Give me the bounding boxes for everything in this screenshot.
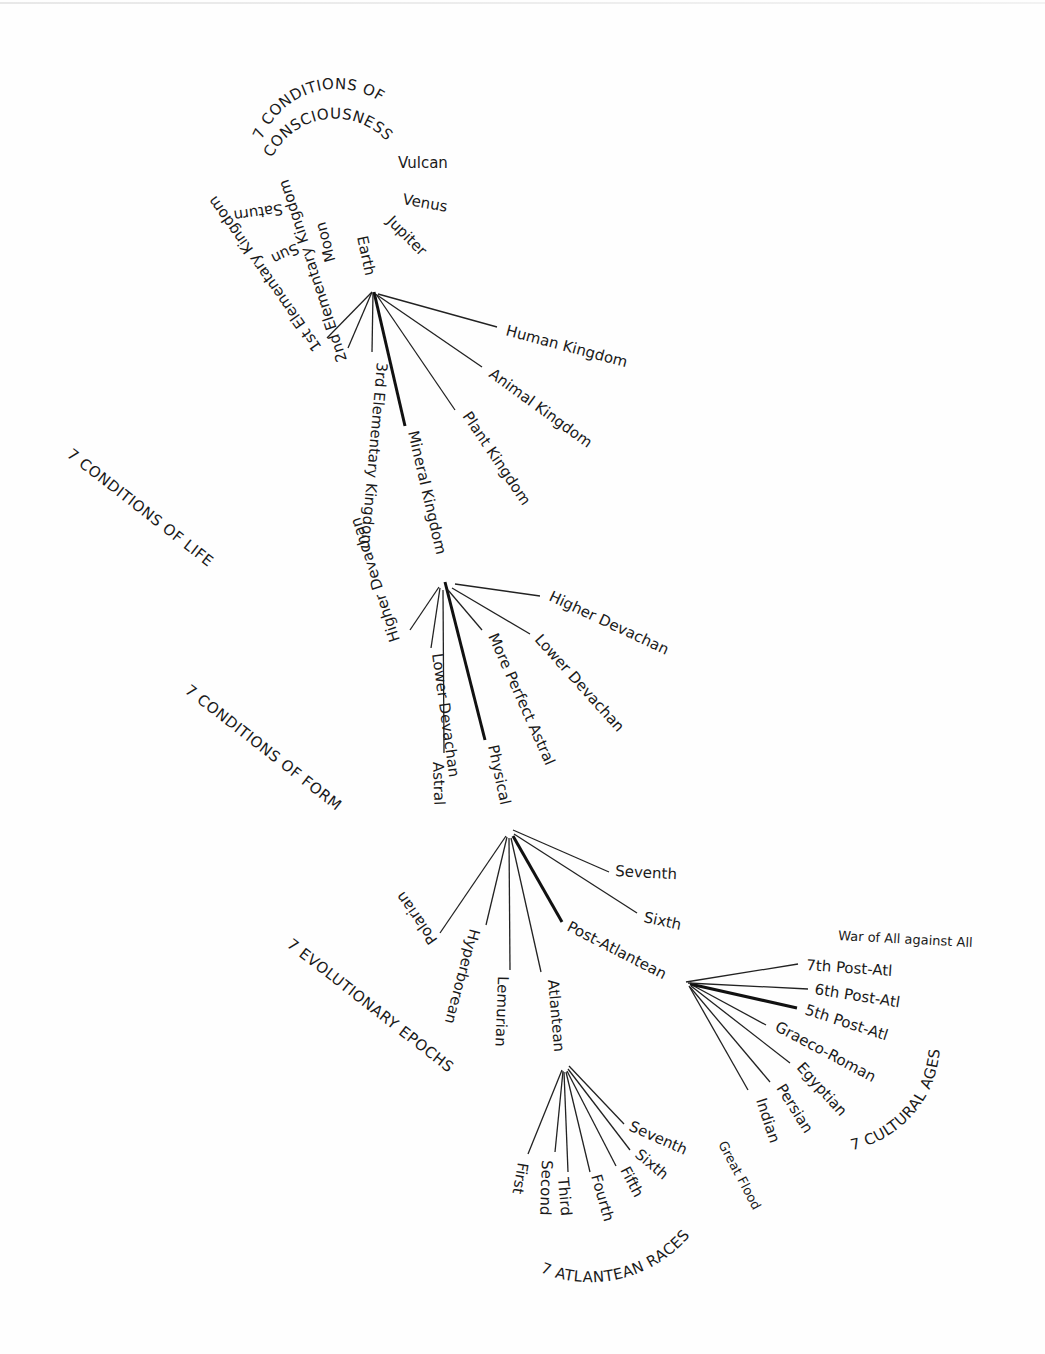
epochs-group: Polarian Hyperborean Hyperborean Lemuria… [284, 830, 684, 1076]
annotation-war-of-all: War of All against All [838, 928, 973, 950]
form-item-4: Physical [484, 743, 514, 806]
age-indian: Indian [752, 1096, 783, 1146]
race-third: Third [554, 1176, 575, 1217]
evolution-diagram: 7 CONDITIONS OF CONSCIOUSNESS Saturn Sun… [0, 0, 1045, 1354]
edge-life-2 [348, 292, 372, 348]
epoch-hyperborean-b: Hyperborean [441, 927, 484, 1026]
planet-saturn: Saturn [232, 200, 284, 225]
epoch-polarian: Polarian [392, 888, 441, 948]
race-fifth: Fifth [616, 1163, 647, 1200]
edge-race-5 [567, 1071, 616, 1166]
edge-race-4 [566, 1072, 590, 1172]
annotation-great-flood: Great Flood [715, 1138, 764, 1212]
planet-earth: Earth [353, 234, 379, 277]
race-fourth: Fourth [587, 1172, 618, 1223]
diagram-page: 7 CONDITIONS OF CONSCIOUSNESS Saturn Sun… [0, 0, 1045, 1354]
edge-life-6 [377, 295, 482, 367]
epoch-seventh: Seventh [615, 862, 678, 883]
edge-life-3 [372, 293, 373, 352]
edge-epoch-7 [513, 830, 609, 872]
atlantean-races-caption: 7 ATLANTEAN RACES [538, 1226, 693, 1286]
edge-race-6 [568, 1069, 630, 1150]
edge-age-4 [692, 985, 766, 1025]
edge-race-7 [569, 1066, 624, 1124]
edge-race-3 [564, 1072, 568, 1172]
edge-epoch-3 [509, 838, 510, 970]
consciousness-group: 7 CONDITIONS OF CONSCIOUSNESS Saturn Sun… [232, 75, 449, 278]
atlantean-races-group: First First Second Third Fourth Fifth Si… [509, 1066, 694, 1286]
edge-age-1 [689, 986, 748, 1090]
edge-form-7 [455, 584, 540, 596]
epoch-sixth: Sixth [642, 908, 683, 934]
planet-venus: Venus [401, 190, 449, 216]
form-item-6: Lower Devachan [531, 631, 628, 736]
planet-vulcan: Vulcan [398, 154, 448, 172]
edge-race-1 [528, 1070, 562, 1154]
life-item-4: Mineral Kingdom [404, 429, 450, 556]
life-caption: 7 CONDITIONS OF LIFE [64, 445, 218, 570]
epoch-atlantean: Atlantean [544, 979, 568, 1053]
epochs-caption: 7 EVOLUTIONARY EPOCHS [284, 935, 458, 1076]
form-item-2b: Lower Devachan [428, 652, 463, 778]
form-item-7: Higher Devachan [546, 587, 671, 658]
life-group: 1st Elementary Kingdom 2nd Elementary Ki… [64, 177, 630, 570]
edge-age-7 [686, 964, 798, 982]
age-7th-post-atl: 7th Post-Atl [806, 956, 893, 980]
epoch-lemurian: Lemurian [492, 976, 512, 1047]
life-item-5: Plant Kingdom [459, 408, 535, 508]
edge-age-2 [690, 987, 770, 1082]
form-caption: 7 CONDITIONS OF FORM [182, 681, 346, 814]
planet-jupiter: Jupiter [382, 211, 431, 260]
form-group: Higher Devachan Lower Devachan Lower Dev… [182, 515, 672, 814]
race-second: Second [536, 1160, 556, 1216]
edge-age-3 [691, 986, 790, 1063]
cultural-ages-group: Indian Persian Egyptian Graeco-Roman 5th… [686, 928, 973, 1212]
life-item-7: Human Kingdom [504, 321, 630, 371]
form-item-3: Astral [429, 762, 449, 806]
edge-form-6 [452, 588, 530, 634]
race-first-b: First [509, 1161, 532, 1195]
life-item-6: Animal Kingdom [486, 365, 596, 452]
